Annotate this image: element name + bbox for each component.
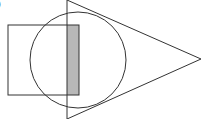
geometry-diagram — [0, 0, 202, 119]
triangle-shape — [67, 0, 201, 119]
shaded-region — [67, 25, 79, 95]
